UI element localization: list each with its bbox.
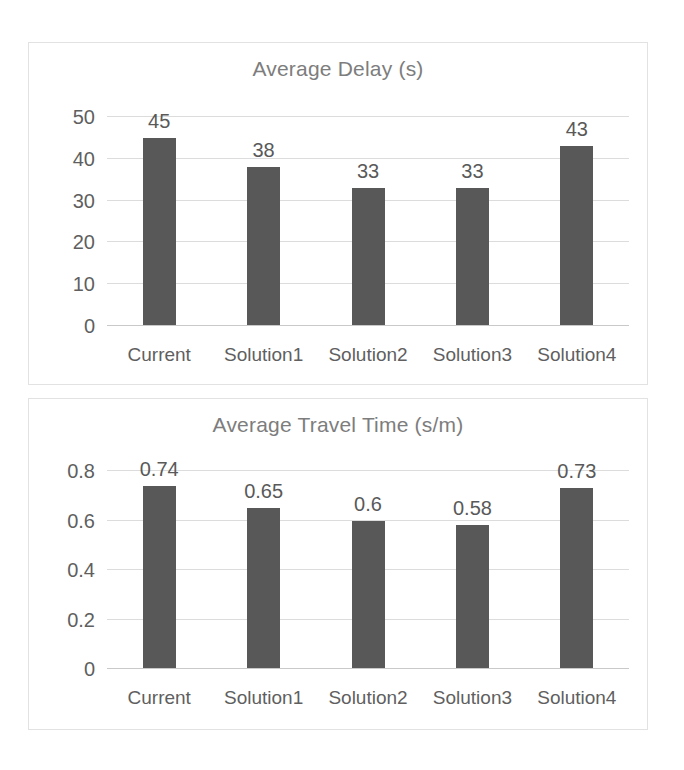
x-axis-category-label: Solution3 — [420, 687, 524, 709]
y-axis-tick-label: 0 — [84, 658, 95, 681]
bar-value-label: 0.6 — [316, 493, 420, 516]
bar-value-label: 0.58 — [420, 497, 524, 520]
bar-slot: 38 — [211, 117, 315, 326]
bar-slot: 0.58 — [420, 471, 524, 669]
bar-series: 4538333343 — [107, 117, 629, 326]
bar-slot: 0.6 — [316, 471, 420, 669]
x-axis-labels: CurrentSolution1Solution2Solution3Soluti… — [107, 687, 629, 709]
y-axis-tick-label: 10 — [73, 273, 95, 296]
y-axis-tick-label: 50 — [73, 106, 95, 129]
x-axis-category-label: Solution2 — [316, 687, 420, 709]
bar-value-label: 43 — [525, 118, 629, 141]
y-axis-tick-label: 30 — [73, 189, 95, 212]
y-axis-tick-label: 0.4 — [67, 559, 95, 582]
y-axis-tick-label: 0.8 — [67, 460, 95, 483]
chart-title: Average Travel Time (s/m) — [29, 413, 647, 437]
bar-slot: 33 — [420, 117, 524, 326]
chart-title: Average Delay (s) — [29, 57, 647, 81]
y-axis-tick-label: 20 — [73, 231, 95, 254]
bar — [352, 521, 385, 670]
bar — [247, 167, 280, 326]
bar-slot: 45 — [107, 117, 211, 326]
x-axis-category-label: Current — [107, 687, 211, 709]
x-axis-category-label: Solution1 — [211, 687, 315, 709]
chart-average-travel-time: Average Travel Time (s/m) 00.20.40.60.8 … — [28, 398, 648, 730]
bar-slot: 43 — [525, 117, 629, 326]
bar-value-label: 0.65 — [211, 480, 315, 503]
bar-slot: 0.74 — [107, 471, 211, 669]
plot-area: 00.20.40.60.8 0.740.650.60.580.73 — [107, 471, 629, 669]
x-axis-category-label: Solution4 — [525, 687, 629, 709]
y-axis-tick-label: 40 — [73, 147, 95, 170]
chart-average-delay: Average Delay (s) 01020304050 4538333343… — [28, 42, 648, 385]
bar — [456, 525, 489, 669]
bar-value-label: 45 — [107, 110, 211, 133]
bar — [143, 486, 176, 669]
bar — [560, 146, 593, 326]
axis-baseline — [107, 668, 629, 669]
bar-slot: 33 — [316, 117, 420, 326]
x-axis-category-label: Solution3 — [420, 344, 524, 366]
bar-value-label: 0.74 — [107, 458, 211, 481]
bar — [143, 138, 176, 326]
x-axis-category-label: Solution4 — [525, 344, 629, 366]
plot-area: 01020304050 4538333343 — [107, 117, 629, 326]
bar-value-label: 33 — [420, 160, 524, 183]
x-axis-category-label: Solution1 — [211, 344, 315, 366]
x-axis-category-label: Solution2 — [316, 344, 420, 366]
bar-slot: 0.73 — [525, 471, 629, 669]
bar — [247, 508, 280, 669]
y-axis-tick-label: 0.6 — [67, 509, 95, 532]
bar-value-label: 33 — [316, 160, 420, 183]
bar-series: 0.740.650.60.580.73 — [107, 471, 629, 669]
x-axis-labels: CurrentSolution1Solution2Solution3Soluti… — [107, 344, 629, 366]
bar-slot: 0.65 — [211, 471, 315, 669]
bar-value-label: 38 — [211, 139, 315, 162]
y-axis-tick-label: 0.2 — [67, 608, 95, 631]
y-axis-tick-label: 0 — [84, 315, 95, 338]
bar — [560, 488, 593, 669]
bar — [456, 188, 489, 326]
axis-baseline — [107, 325, 629, 326]
x-axis-category-label: Current — [107, 344, 211, 366]
bar — [352, 188, 385, 326]
bar-value-label: 0.73 — [525, 460, 629, 483]
